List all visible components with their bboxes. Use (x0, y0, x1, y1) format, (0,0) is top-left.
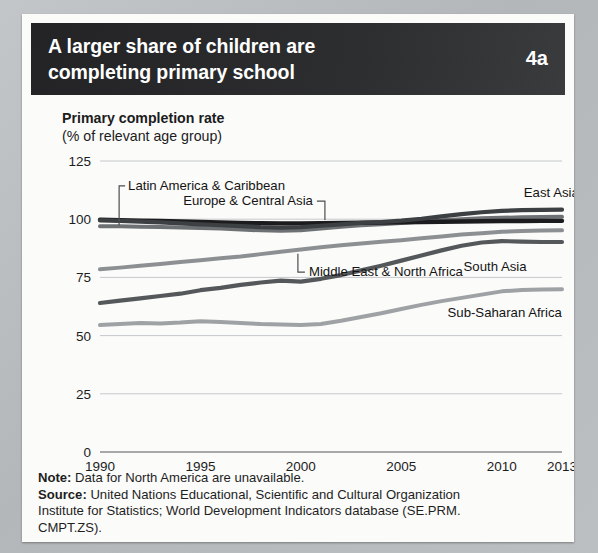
y-tick-label: 0 (83, 445, 91, 460)
label-leader-line (298, 254, 305, 272)
y-tick-label: 125 (68, 154, 91, 169)
series-label: Europe & Central Asia (183, 193, 313, 208)
series-label: Latin America & Caribbean (128, 178, 285, 193)
chart-plot-area: 0255075100125199019952000200520102013Lat… (22, 14, 574, 484)
source-label: Source: (38, 487, 87, 502)
series-label: East Asia & Pacific (524, 185, 574, 200)
y-tick-label: 75 (76, 270, 91, 285)
line-chart: 0255075100125199019952000200520102013Lat… (22, 14, 574, 484)
y-tick-label: 25 (76, 387, 91, 402)
series-label: Sub-Saharan Africa (448, 305, 563, 320)
note-label: Note: (38, 470, 71, 485)
footnote-source-line2: Institute for Statistics; World Developm… (38, 503, 560, 520)
note-text: Data for North America are unavailable. (71, 470, 304, 485)
label-leader-line (317, 201, 325, 220)
footnote-source-line3: CMPT.ZS). (38, 520, 560, 537)
figure-page: A larger share of children are completin… (0, 0, 598, 553)
series-label: South Asia (464, 259, 528, 274)
footnote-source: Source: United Nations Educational, Scie… (38, 487, 560, 504)
y-tick-label: 100 (68, 212, 91, 227)
figure-card: A larger share of children are completin… (22, 14, 574, 542)
y-tick-label: 50 (76, 329, 91, 344)
figure-footnote: Note: Data for North America are unavail… (38, 470, 560, 536)
footnote-note: Note: Data for North America are unavail… (38, 470, 560, 487)
source-text: United Nations Educational, Scientific a… (87, 487, 460, 502)
series-label: Middle East & North Africa (309, 264, 464, 279)
